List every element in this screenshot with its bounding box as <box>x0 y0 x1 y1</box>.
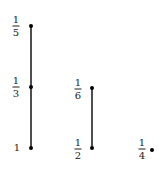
denominator: 2 <box>75 151 81 161</box>
label-1-4: 1 4 <box>139 138 146 161</box>
numerator: 1 <box>139 138 145 148</box>
node-1-2 <box>90 146 94 150</box>
node-1 <box>29 146 33 150</box>
node-1-6 <box>90 86 94 90</box>
denominator: 6 <box>75 91 81 101</box>
node-1-5 <box>29 24 33 28</box>
label-1: 1 <box>14 143 20 153</box>
denominator: 5 <box>13 28 19 38</box>
node-1-4 <box>150 148 154 152</box>
numerator: 1 <box>13 15 19 25</box>
node-1-3 <box>29 85 33 89</box>
numerator: 1 <box>75 138 81 148</box>
numerator: 1 <box>75 78 81 88</box>
numerator: 1 <box>13 76 19 86</box>
label-1-5: 1 5 <box>13 15 20 38</box>
label-1-2: 1 2 <box>75 138 82 161</box>
label-1-3: 1 3 <box>13 76 20 99</box>
denominator: 3 <box>13 89 19 99</box>
denominator: 4 <box>139 151 145 161</box>
label-1-6: 1 6 <box>75 78 82 101</box>
